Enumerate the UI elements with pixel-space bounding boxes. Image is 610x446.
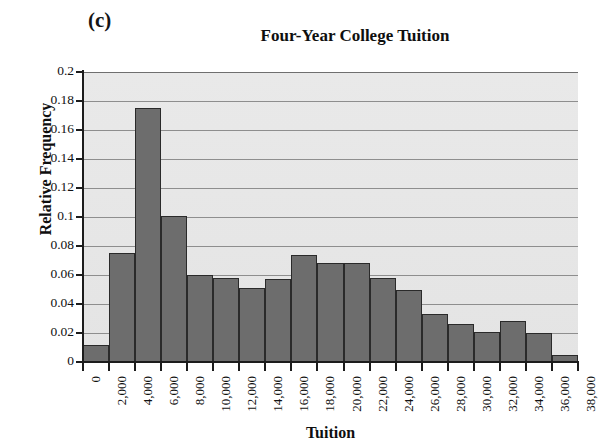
x-axis-tick [108, 362, 110, 371]
y-axis-tick-label: 0.04 [12, 295, 74, 311]
y-axis-tick-label: 0 [12, 353, 74, 369]
y-axis-tick-label: 0.18 [12, 92, 74, 108]
histogram-bar [422, 314, 448, 362]
x-axis-tick [551, 362, 553, 371]
histogram-bar [109, 253, 135, 362]
y-axis-tick-label: 0.12 [12, 179, 74, 195]
x-axis-tick-label: 38,000 [583, 376, 599, 412]
x-axis-title: Tuition [83, 424, 578, 442]
x-axis-tick [421, 362, 423, 371]
x-axis-tick-label: 16,000 [296, 376, 312, 412]
x-axis-tick-label: 10,000 [218, 376, 234, 412]
x-axis-tick-label: 4,000 [140, 376, 156, 405]
x-axis-tick [499, 362, 501, 371]
histogram-bar [265, 279, 291, 362]
histogram-bar [370, 278, 396, 362]
x-axis-tick [577, 362, 579, 371]
y-axis-tick [76, 245, 84, 247]
y-axis-tick-label: 0.08 [12, 237, 74, 253]
x-axis-tick [316, 362, 318, 371]
histogram-bar [239, 288, 265, 362]
x-axis-tick [264, 362, 266, 371]
x-axis-tick [395, 362, 397, 371]
histogram-bar [500, 321, 526, 362]
histogram-bar [135, 108, 161, 362]
x-axis-tick [238, 362, 240, 371]
y-axis-tick [76, 158, 84, 160]
histogram-bar [161, 216, 187, 362]
y-axis-tick-label: 0.14 [12, 150, 74, 166]
histogram-plot-area [83, 72, 578, 362]
x-axis-tick-label: 14,000 [270, 376, 286, 412]
histogram-bar [344, 263, 370, 362]
x-axis-tick [369, 362, 371, 371]
x-axis-tick [134, 362, 136, 371]
y-axis-tick [76, 100, 84, 102]
chart-title: Four-Year College Tuition [190, 26, 520, 46]
histogram-bar [213, 278, 239, 362]
x-axis-tick [186, 362, 188, 371]
histogram-bar [291, 255, 317, 362]
y-axis-tick-label: 0.02 [12, 324, 74, 340]
x-axis-tick [212, 362, 214, 371]
histogram-bar [396, 290, 422, 363]
histogram-bar [83, 345, 109, 362]
y-axis-tick-label: 0.16 [12, 121, 74, 137]
panel-label: (c) [88, 8, 111, 33]
y-axis-tick-label: 0.06 [12, 266, 74, 282]
x-axis-tick [343, 362, 345, 371]
x-axis-tick-label: 30,000 [479, 376, 495, 412]
histogram-bar [317, 263, 343, 362]
x-axis-tick [447, 362, 449, 371]
x-axis-tick-label: 18,000 [322, 376, 338, 412]
x-axis-line [82, 361, 579, 363]
x-axis-tick-label: 6,000 [166, 376, 182, 405]
x-axis-tick-label: 22,000 [375, 376, 391, 412]
x-axis-tick [473, 362, 475, 371]
y-axis-tick-label: 0.2 [12, 63, 74, 79]
x-axis-tick [160, 362, 162, 371]
histogram-bar [187, 275, 213, 362]
histogram-bar [474, 332, 500, 362]
gridline [83, 72, 578, 73]
y-axis-tick [76, 129, 84, 131]
x-axis-tick-label: 32,000 [505, 376, 521, 412]
y-axis-tick [76, 303, 84, 305]
x-axis-tick-label: 24,000 [401, 376, 417, 412]
histogram-bar [526, 333, 552, 362]
y-axis-tick [76, 332, 84, 334]
y-axis-tick-label: 0.1 [12, 208, 74, 224]
x-axis-tick-label: 26,000 [427, 376, 443, 412]
gridline [83, 101, 578, 102]
x-axis-tick-label: 2,000 [114, 376, 130, 405]
x-axis-tick-label: 0 [88, 376, 104, 383]
x-axis-tick [82, 362, 84, 371]
x-axis-tick [290, 362, 292, 371]
x-axis-tick-label: 36,000 [557, 376, 573, 412]
x-axis-tick [525, 362, 527, 371]
y-axis-tick [76, 274, 84, 276]
x-axis-tick-label: 20,000 [349, 376, 365, 412]
histogram-bar [448, 324, 474, 362]
y-axis-tick [76, 71, 84, 73]
y-axis-tick [76, 216, 84, 218]
x-axis-tick-label: 8,000 [192, 376, 208, 405]
x-axis-tick-label: 34,000 [531, 376, 547, 412]
x-axis-tick-label: 28,000 [453, 376, 469, 412]
x-axis-tick-label: 12,000 [244, 376, 260, 412]
y-axis-tick [76, 187, 84, 189]
